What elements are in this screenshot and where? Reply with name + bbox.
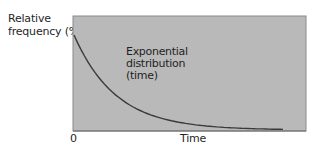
plot-background bbox=[73, 16, 306, 131]
annotation-line3: (time) bbox=[126, 70, 188, 82]
x-axis-label: Time bbox=[180, 132, 206, 145]
x-axis-origin-tick: 0 bbox=[70, 132, 77, 145]
distribution-annotation: Exponential distribution (time) bbox=[126, 46, 188, 82]
